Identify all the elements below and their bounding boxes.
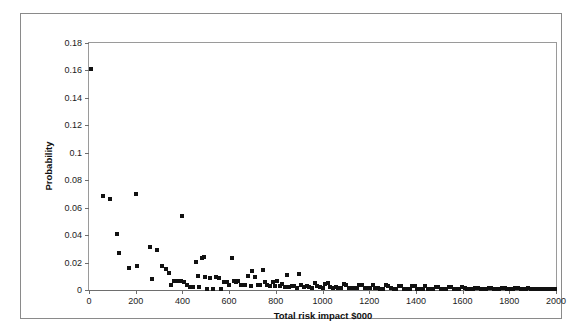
plot-area: 00.020.040.060.080.10.120.140.160.18 020… (88, 42, 557, 291)
scatter-point (194, 260, 198, 264)
scatter-point (115, 232, 119, 236)
x-axis-tick-label: 1800 (499, 297, 519, 306)
x-axis-tick-mark (136, 290, 137, 294)
scatter-point (197, 285, 201, 289)
scatter-point (169, 283, 173, 287)
scatter-point (167, 271, 171, 275)
scatter-point (155, 248, 159, 252)
scatter-point (250, 269, 254, 273)
x-axis-tick-mark (323, 290, 324, 294)
scatter-point (275, 279, 279, 283)
scatter-point (219, 287, 223, 291)
x-axis-tick-label: 600 (222, 297, 237, 306)
scatter-point (203, 275, 207, 279)
scatter-point (180, 214, 184, 218)
x-axis-tick-mark (276, 290, 277, 294)
scatter-chart-figure: Probability Total risk impact $000 00.02… (0, 0, 579, 333)
scatter-point (117, 251, 121, 255)
scatter-point (150, 277, 154, 281)
x-axis-tick-label: 800 (268, 297, 283, 306)
scatter-point (101, 194, 105, 198)
scatter-point (134, 192, 138, 196)
scatter-point (108, 197, 112, 201)
x-axis-tick-label: 2000 (546, 297, 566, 306)
scatter-point (230, 256, 234, 260)
scatter-point (208, 276, 212, 280)
scatter-point (243, 283, 247, 287)
scatter-point (310, 286, 314, 290)
scatter-point (246, 274, 250, 278)
scatter-point (89, 67, 93, 71)
scatter-point (553, 287, 557, 291)
scatter-point (205, 287, 209, 291)
x-axis-tick-mark (229, 290, 230, 294)
scatter-point (261, 268, 265, 272)
scatter-point (127, 266, 131, 270)
scatter-point (268, 284, 272, 288)
scatter-point (191, 285, 195, 289)
x-axis-tick-label: 0 (86, 297, 91, 306)
data-points-layer (89, 43, 556, 290)
scatter-point (227, 283, 231, 287)
scatter-point (148, 245, 152, 249)
scatter-point (236, 279, 240, 283)
x-axis-tick-mark (89, 290, 90, 294)
scatter-point (135, 264, 139, 268)
scatter-point (339, 286, 343, 290)
scatter-point (355, 286, 359, 290)
scatter-point (273, 284, 277, 288)
scatter-point (202, 255, 206, 259)
x-axis-title: Total risk impact $000 (274, 310, 373, 321)
scatter-point (297, 272, 301, 276)
x-axis-tick-label: 1400 (406, 297, 426, 306)
scatter-point (196, 274, 200, 278)
scatter-point (285, 273, 289, 277)
scatter-point (253, 275, 257, 279)
chart-outer-frame: Probability Total risk impact $000 00.02… (20, 13, 562, 319)
x-axis-tick-label: 1000 (312, 297, 332, 306)
x-axis-tick-label: 1600 (453, 297, 473, 306)
x-axis-tick-mark (182, 290, 183, 294)
scatter-point (217, 276, 221, 280)
scatter-point (249, 284, 253, 288)
x-axis-tick-label: 400 (175, 297, 190, 306)
x-axis-tick-mark (463, 290, 464, 294)
scatter-point (211, 287, 215, 291)
scatter-point (321, 286, 325, 290)
x-axis-tick-label: 1200 (359, 297, 379, 306)
scatter-point (283, 285, 287, 289)
x-axis-tick-mark (369, 290, 370, 294)
x-axis-tick-label: 200 (128, 297, 143, 306)
y-axis-title: Probability (43, 141, 54, 190)
